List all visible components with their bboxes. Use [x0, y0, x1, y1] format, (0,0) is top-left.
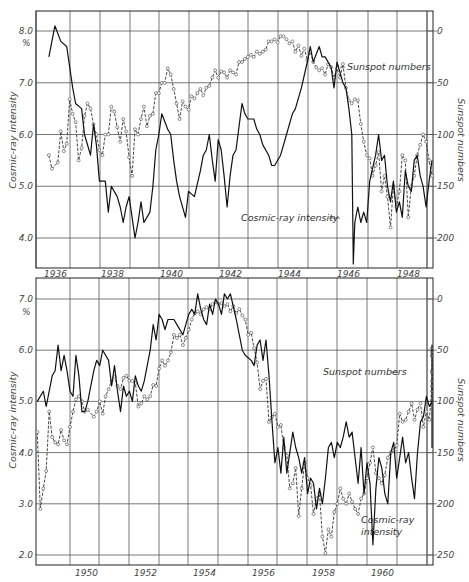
sunspot-marker: [353, 98, 356, 101]
sunspot-marker: [282, 35, 285, 38]
sunspot-marker: [149, 395, 152, 398]
sunspot-marker: [276, 426, 279, 429]
x-tick-label: 1958: [312, 568, 335, 578]
sunspot-marker: [175, 102, 178, 105]
sunspot-marker: [368, 157, 371, 160]
sunspot-marker: [140, 118, 143, 121]
sunspot-marker: [407, 410, 410, 413]
sunspot-marker: [50, 167, 53, 170]
sunspot-marker: [291, 40, 294, 43]
y-tick-label-left: 3.0: [19, 499, 34, 509]
sunspot-marker: [386, 456, 389, 459]
sunspot-marker: [413, 418, 416, 421]
y-tick-label-right: 200: [437, 499, 454, 509]
sunspot-marker: [365, 154, 368, 157]
sunspot-marker: [196, 92, 199, 95]
sunspot-marker: [336, 502, 339, 505]
sunspot-marker: [235, 73, 238, 76]
sunspot-marker: [300, 54, 303, 57]
y-tick-label-left: 2.0: [19, 550, 34, 560]
sunspot-marker: [404, 159, 407, 162]
sunspot-marker: [72, 410, 75, 413]
sunspot-marker: [416, 408, 419, 411]
top-right-axis-title: Sunspot numbers: [456, 98, 467, 182]
bottom-annotation-cosmic-line2: intensity: [361, 526, 403, 537]
y-tick-label-right: 100: [437, 130, 454, 140]
sunspot-marker: [285, 38, 288, 41]
sunspot-marker: [324, 73, 327, 76]
sunspot-marker: [244, 318, 247, 321]
sunspot-marker: [321, 535, 324, 538]
sunspot-marker: [249, 53, 252, 56]
sunspot-marker: [268, 420, 271, 423]
sunspot-marker: [143, 395, 146, 398]
bottom-y-tick-labels-right: 050100150200250: [427, 294, 454, 560]
sunspot-marker: [137, 405, 140, 408]
sunspot-marker: [247, 333, 250, 336]
sunspot-marker: [315, 66, 318, 69]
sunspot-marker: [175, 336, 178, 339]
sunspot-marker: [145, 125, 148, 128]
sunspot-marker: [193, 97, 196, 100]
sunspot-marker: [157, 92, 160, 95]
sunspot-marker: [170, 351, 173, 354]
top-y-tick-labels-right: 050100150200: [427, 26, 454, 243]
sunspot-marker: [98, 149, 101, 152]
bottom-y-tick-labels-left: 7.06.05.04.03.02.0: [19, 294, 34, 560]
sunspot-marker: [211, 76, 214, 79]
sunspot-marker: [163, 81, 166, 84]
sunspot-marker: [83, 114, 86, 117]
top-annotation-sunspot: Sunspot numbers: [347, 61, 431, 72]
y-tick-label-right: 150: [437, 448, 454, 458]
sunspot-marker: [398, 412, 401, 415]
sunspot-marker: [104, 133, 107, 136]
sunspot-marker: [386, 195, 389, 198]
sunspot-marker: [154, 92, 157, 95]
sunspot-marker: [404, 418, 407, 421]
sunspot-marker: [116, 126, 119, 129]
sunspot-marker: [241, 61, 244, 64]
sunspot-marker: [62, 150, 65, 153]
sunspot-marker: [205, 86, 208, 89]
sunspot-marker: [428, 159, 431, 162]
x-tick-label: 1950: [75, 568, 98, 578]
sunspot-marker: [348, 492, 351, 495]
y-tick-label-left: 7.0: [19, 78, 34, 88]
sunspot-marker: [107, 133, 110, 136]
sunspot-marker: [383, 174, 386, 177]
sunspot-marker: [60, 429, 63, 432]
sunspot-marker: [241, 314, 244, 317]
sunspot-marker: [134, 128, 137, 131]
sunspot-marker: [351, 500, 354, 503]
sunspot-marker: [333, 511, 336, 514]
bottom-unit-label: %: [22, 307, 31, 317]
sunspot-marker: [288, 42, 291, 45]
sunspot-marker: [291, 482, 294, 485]
y-tick-label-right: 50: [437, 78, 449, 88]
sunspot-marker: [354, 507, 357, 510]
sunspot-marker: [359, 123, 362, 126]
sunspot-marker: [357, 513, 360, 516]
sunspot-marker: [167, 359, 170, 362]
sunspot-marker: [264, 48, 267, 51]
sunspot-marker: [229, 69, 232, 72]
sunspot-marker: [401, 420, 404, 423]
sunspot-marker: [63, 439, 66, 442]
sunspot-marker: [190, 318, 193, 321]
y-tick-label-right: 50: [437, 345, 449, 355]
sunspot-marker: [101, 412, 104, 415]
y-tick-label-right: 150: [437, 181, 454, 191]
y-tick-label-left: 4.0: [19, 233, 34, 243]
sunspot-marker: [190, 95, 193, 98]
sunspot-marker: [151, 112, 154, 115]
sunspot-marker: [202, 94, 205, 97]
sunspot-marker: [327, 528, 330, 531]
y-tick-label-right: 200: [437, 233, 454, 243]
y-tick-label-left: 5.0: [19, 396, 34, 406]
sunspot-marker: [250, 331, 253, 334]
top-left-axis-title: Cosmic-ray intensity: [7, 91, 18, 189]
sunspot-marker: [140, 402, 143, 405]
sunspot-marker: [253, 347, 256, 350]
sunspot-marker: [259, 388, 262, 391]
sunspot-marker: [371, 446, 374, 449]
